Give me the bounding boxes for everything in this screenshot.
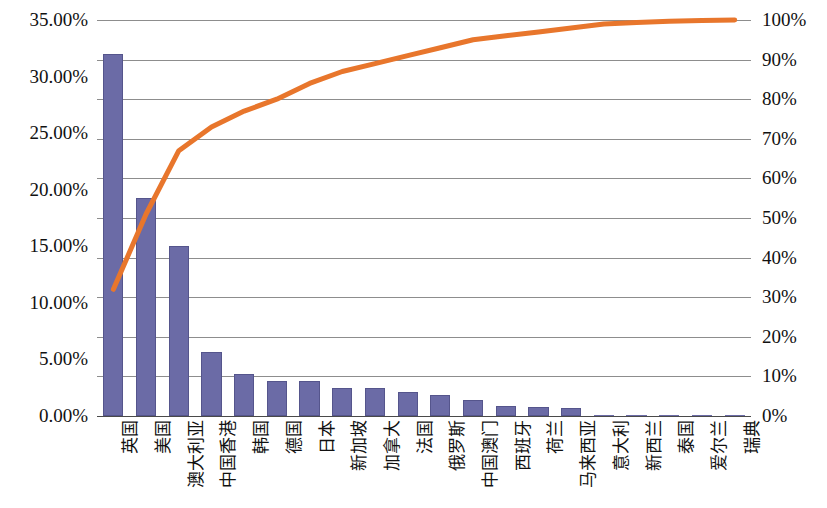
right-axis-tick-label: 80% (762, 89, 826, 108)
right-axis-tick-label: 0% (762, 406, 826, 425)
category-label: 英国 (122, 420, 139, 454)
left-axis-tick-label: 10.00% (0, 293, 88, 312)
category-label: 日本 (319, 420, 336, 454)
category-label: 西班牙 (515, 420, 532, 471)
right-axis-tick-label: 30% (762, 287, 826, 306)
category-label: 瑞典 (744, 420, 761, 454)
category-label: 荷兰 (547, 420, 564, 454)
plot-area (97, 20, 751, 416)
right-axis-tick-label: 90% (762, 50, 826, 69)
category-label: 中国澳门 (482, 420, 499, 488)
gridline (97, 416, 751, 417)
category-label: 法国 (417, 420, 434, 454)
category-label: 俄罗斯 (449, 420, 466, 471)
category-label: 中国香港 (220, 420, 237, 488)
category-label: 加拿大 (384, 420, 401, 471)
right-axis-tick-label: 70% (762, 129, 826, 148)
left-axis-tick-label: 15.00% (0, 236, 88, 255)
category-label: 美国 (155, 420, 172, 454)
category-label: 爱尔兰 (711, 420, 728, 471)
cumulative-line-series (97, 20, 751, 416)
category-label: 意大利 (613, 420, 630, 471)
left-axis-tick-label: 35.00% (0, 10, 88, 29)
category-axis: 英国美国澳大利亚中国香港韩国德国日本新加坡加拿大法国俄罗斯中国澳门西班牙荷兰马来… (97, 420, 751, 508)
category-label: 德国 (286, 420, 303, 454)
left-axis-tick-label: 25.00% (0, 123, 88, 142)
right-axis-tick-label: 10% (762, 366, 826, 385)
category-label: 新加坡 (351, 420, 368, 471)
left-axis-tick-label: 5.00% (0, 349, 88, 368)
pareto-chart: 0.00%5.00%10.00%15.00%20.00%25.00%30.00%… (0, 0, 827, 508)
right-axis-tick-label: 60% (762, 168, 826, 187)
left-axis-tick-label: 0.00% (0, 406, 88, 425)
right-axis-tick-label: 20% (762, 327, 826, 346)
category-label: 韩国 (253, 420, 270, 454)
cumulative-polyline (113, 20, 734, 289)
category-label: 泰国 (678, 420, 695, 454)
right-axis-tick-label: 100% (762, 10, 826, 29)
right-axis-tick-label: 40% (762, 248, 826, 267)
right-axis-tick-label: 50% (762, 208, 826, 227)
category-label: 新西兰 (646, 420, 663, 471)
left-axis-tick-label: 30.00% (0, 67, 88, 86)
left-axis-tick-label: 20.00% (0, 180, 88, 199)
category-label: 澳大利亚 (188, 420, 205, 488)
category-label: 马来西亚 (580, 420, 597, 488)
